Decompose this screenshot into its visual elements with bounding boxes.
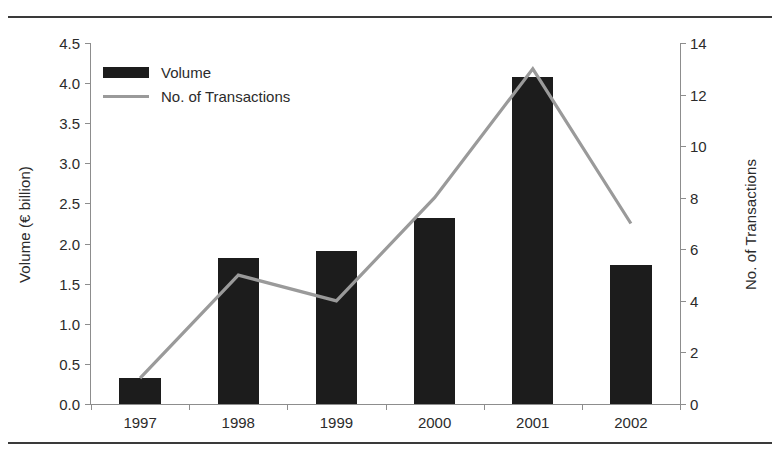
left-axis-title: Volume (€ billion)	[16, 115, 33, 335]
left-tick-mark	[85, 284, 90, 285]
x-tick-mark	[189, 404, 190, 410]
right-axis-line	[680, 43, 681, 405]
left-tick-mark	[85, 43, 90, 44]
left-tick-mark	[85, 83, 90, 84]
right-axis-title: No. of Transactions	[742, 115, 759, 335]
right-tick-mark	[681, 352, 686, 353]
right-axis-tick-labels: 02468101214	[686, 16, 728, 442]
right-tick-mark	[681, 249, 686, 250]
left-tick-label: 3.0	[59, 156, 80, 171]
x-tick-mark	[680, 404, 681, 410]
right-tick-label: 12	[690, 88, 707, 103]
right-tick-mark	[681, 198, 686, 199]
right-tick-label: 10	[690, 139, 707, 154]
x-label-2000: 2000	[386, 414, 484, 431]
plot-wrapper: Volume (€ billion) No. of Transactions 0…	[0, 16, 780, 442]
x-label-2002: 2002	[582, 414, 680, 431]
x-axis-category-labels: 199719981999200020012002	[91, 414, 680, 438]
left-tick-mark	[85, 364, 90, 365]
x-tick-mark	[484, 404, 485, 410]
left-tick-mark	[85, 123, 90, 124]
right-tick-label: 2	[690, 345, 698, 360]
bottom-divider-rule	[8, 442, 772, 444]
left-tick-label: 4.0	[59, 76, 80, 91]
right-tick-label: 4	[690, 294, 698, 309]
right-tick-label: 8	[690, 191, 698, 206]
right-tick-label: 0	[690, 397, 698, 412]
chart-figure: Volume (€ billion) No. of Transactions 0…	[0, 0, 780, 470]
left-tick-mark	[85, 203, 90, 204]
right-tick-label: 6	[690, 242, 698, 257]
x-label-1999: 1999	[287, 414, 385, 431]
legend-label-volume: Volume	[161, 64, 211, 81]
x-label-1997: 1997	[91, 414, 189, 431]
left-tick-mark	[85, 324, 90, 325]
left-tick-label: 0.5	[59, 357, 80, 372]
left-tick-label: 1.0	[59, 317, 80, 332]
legend-item-volume: Volume	[103, 60, 290, 84]
right-tick-mark	[681, 404, 686, 405]
right-tick-mark	[681, 43, 686, 44]
left-tick-label: 2.0	[59, 237, 80, 252]
left-tick-mark	[85, 244, 90, 245]
right-tick-label: 14	[690, 36, 707, 51]
left-tick-label: 1.5	[59, 277, 80, 292]
x-label-1998: 1998	[189, 414, 287, 431]
left-tick-label: 0.0	[59, 397, 80, 412]
chart-legend: Volume No. of Transactions	[103, 60, 290, 108]
left-tick-label: 4.5	[59, 36, 80, 51]
left-tick-mark	[85, 404, 90, 405]
x-tick-mark	[582, 404, 583, 410]
legend-label-transactions: No. of Transactions	[161, 88, 290, 105]
right-tick-mark	[681, 146, 686, 147]
legend-item-transactions: No. of Transactions	[103, 84, 290, 108]
left-tick-mark	[85, 163, 90, 164]
x-tick-mark	[91, 404, 92, 410]
x-label-2001: 2001	[484, 414, 582, 431]
right-tick-mark	[681, 95, 686, 96]
legend-bar-swatch-icon	[103, 67, 149, 78]
x-tick-mark	[386, 404, 387, 410]
legend-line-swatch-icon	[103, 95, 149, 98]
right-tick-mark	[681, 301, 686, 302]
x-tick-mark	[287, 404, 288, 410]
left-tick-label: 3.5	[59, 116, 80, 131]
left-tick-label: 2.5	[59, 196, 80, 211]
left-axis-tick-labels: 0.00.51.01.52.02.53.03.54.04.5	[42, 16, 84, 442]
